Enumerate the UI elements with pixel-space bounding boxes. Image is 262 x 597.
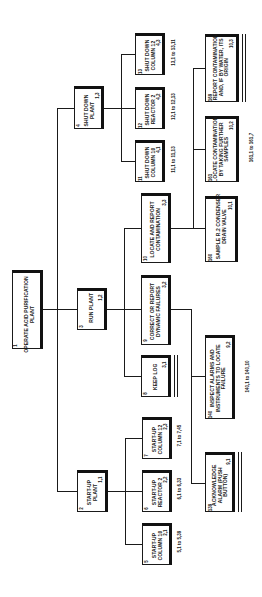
task-node-8[interactable]: KEEP LOG 3,1 8 [141,355,171,397]
task-label: RUN PLANT [89,290,95,326]
connector-10-out [171,228,193,229]
task-code: 4,2 [156,93,161,99]
task-label: START-UP COLUMN 12 [152,420,163,460]
task-label: CORRECT OR REPORT DYNAMIC FAILURES [150,279,161,345]
connector-10 [124,228,141,229]
task-node-6[interactable]: START-UP REACTOR 2 2,2 6 [142,470,172,512]
connector-12 [121,108,135,109]
connector-139 [191,483,205,484]
task-id: 160 [208,254,213,262]
spine-9 [191,309,192,483]
task-code: 9,2 [226,341,231,347]
task-id: 5 [144,560,149,563]
connector-2-out [108,491,125,492]
task-node-2[interactable]: START-UP PLANT 1,1 2 [77,470,108,512]
task-code: 3,2 [162,281,167,287]
task-id: 7 [144,454,149,457]
task-id: 161 [208,174,213,182]
connector-160 [193,228,205,229]
task-label: SHUT DOWN COLUMN 12 [145,36,156,76]
task-code: 2,3 [163,423,168,429]
task-code: 2,1 [163,529,168,535]
spine-level1 [57,108,58,492]
task-node-140[interactable]: INSPECT ALARMS AND INSTRUMENTS TO LOCATE… [205,335,235,419]
task-label: OPERATE ACID PURIFICATION PLANT [24,275,35,355]
task-label: SAMPLE R.2 CONDENSER DRAIN VALVE [216,194,227,260]
step-range-7: 7,1 to 7,45 [177,423,182,449]
task-id: 140 [208,411,213,419]
step-range-5: 5,1 to 5,39 [177,529,182,555]
task-id: 8 [143,392,148,395]
connector-169 [193,68,205,69]
task-label: LOCATE CONTAMINATION BY TAKING FURTHER S… [213,116,230,182]
connector-9 [124,309,141,310]
step-range-161: 161,1 to 161,7 [249,123,254,173]
connector-161 [193,149,205,150]
task-code: 4,3 [156,39,161,45]
task-node-12[interactable]: SHUT DOWN REACTOR 2 4,2 12 [135,87,165,129]
task-id: 1 [13,344,18,347]
connector-7 [125,438,142,439]
task-node-10[interactable]: LOCATE AND REPORT CONTAMINATION 3,3 10 [141,193,171,263]
task-code: 9,1 [226,458,231,464]
stop-rule-169 [242,34,246,102]
connector-4-out [104,108,121,109]
stop-rule-139 [238,452,242,512]
step-range-11: 11,1 to 11,13 [171,145,176,175]
task-node-11[interactable]: SHUT DOWN COLUMN 10 4,1 11 [135,140,165,182]
connector-13 [121,54,135,55]
task-node-161[interactable]: LOCATE CONTAMINATION BY TAKING FURTHER S… [205,116,239,182]
task-id: 6 [144,507,149,510]
connector-6 [125,491,142,492]
task-id: 11 [138,176,143,181]
task-id: 169 [208,94,213,102]
step-range-13: 13,1 to 13,11 [171,38,176,68]
connector-4 [57,108,74,109]
task-label: START-UP COLUMN 10 [152,526,163,566]
task-label: SHUT DOWN COLUMN 10 [145,143,156,183]
task-label: START-UP REACTOR 2 [152,473,163,513]
task-code: 1,1 [98,476,103,482]
connector-1 [43,309,77,310]
task-node-7[interactable]: START-UP COLUMN 12 2,3 7 [142,417,172,459]
task-id: 3 [79,325,84,328]
task-code: 4,1 [156,146,161,152]
task-id: 9 [143,339,148,342]
connector-3-out [107,309,124,310]
task-label: REPORT CONTAMINATION AND, IF BY WATER, I… [213,34,230,100]
task-node-169[interactable]: REPORT CONTAMINATION AND, IF BY WATER, I… [205,34,239,102]
task-code: 1,2 [98,294,103,300]
task-label: SHUT DOWN REACTOR 2 [145,90,156,130]
task-code: 3,3 [162,199,167,205]
stop-rule-8 [174,355,178,397]
task-node-160[interactable]: SAMPLE R.2 CONDENSER DRAIN VALVE 10,1 16… [205,196,238,262]
task-id: 13 [138,69,143,74]
task-label: LOCATE AND REPORT CONTAMINATION [150,197,161,263]
connector-11 [121,161,135,162]
task-label: START-UP PLANT [87,475,98,511]
task-node-5[interactable]: START-UP COLUMN 10 2,1 5 [142,523,172,565]
task-node-9[interactable]: CORRECT OR REPORT DYNAMIC FAILURES 3,2 9 [141,275,171,345]
task-label: INSPECT ALARMS AND INSTRUMENTS TO LOCATE… [210,338,227,418]
step-range-12: 12,1 to 12,13 [171,92,176,122]
task-node-3[interactable]: RUN PLANT 1,2 3 [77,288,107,330]
task-node-1[interactable]: OPERATE ACID PURIFICATION PLANT 1 [12,270,43,349]
task-code: 10,2 [229,121,234,130]
task-code: 1,3 [95,92,100,98]
step-range-140: 140,1 to 140,10 [245,352,250,402]
task-id: 10 [143,256,148,261]
task-id: 12 [138,123,143,128]
connector-5 [125,544,142,545]
task-label: SHUT DOWN PLANT [84,89,95,133]
spine-3 [124,228,125,376]
task-node-4[interactable]: SHUT DOWN PLANT 1,3 4 [74,86,104,129]
task-node-139[interactable]: ACKNOWLEDGE ALARM (PUSH BUTTON) 9,1 139 [205,452,235,512]
task-code: 2,2 [163,476,168,482]
task-id: 4 [76,124,81,127]
task-id: 2 [79,507,84,510]
connector-140 [191,376,205,377]
task-node-13[interactable]: SHUT DOWN COLUMN 12 4,3 13 [135,33,165,75]
step-range-6: 6,1 to 6,33 [177,476,182,502]
task-label: KEEP LOG [153,357,159,397]
connector-9-out [171,309,191,310]
